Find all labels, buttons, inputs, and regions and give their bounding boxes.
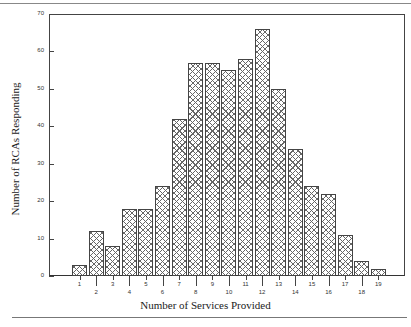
x-tick-label: 2	[86, 289, 106, 295]
y-tick	[49, 201, 54, 202]
x-tick	[163, 276, 164, 286]
top-rule	[0, 3, 411, 4]
bar-13	[271, 89, 286, 276]
bar-9	[205, 63, 220, 276]
x-tick	[295, 276, 296, 286]
y-tick-label: 50	[20, 85, 44, 91]
x-tick	[345, 276, 346, 280]
x-tick	[312, 276, 313, 280]
x-tick-label: 15	[302, 281, 322, 287]
y-tick-label: 10	[20, 235, 44, 241]
x-tick-label: 7	[169, 281, 189, 287]
y-tick	[49, 51, 54, 52]
bar-11	[238, 59, 253, 276]
bar-6	[155, 186, 170, 276]
x-tick	[362, 276, 363, 286]
y-tick	[49, 126, 54, 127]
bar-14	[288, 149, 303, 276]
y-tick-label: 0	[20, 272, 44, 278]
bottom-rule	[12, 317, 407, 318]
x-tick-label: 12	[252, 289, 272, 295]
y-tick-label: 30	[20, 160, 44, 166]
bar-5	[138, 209, 153, 276]
x-tick	[80, 276, 81, 280]
x-tick	[129, 276, 130, 286]
bar-15	[304, 186, 319, 276]
bar-17	[338, 235, 353, 276]
y-tick-label: 40	[20, 122, 44, 128]
x-tick-label: 8	[186, 289, 206, 295]
bar-18	[354, 261, 369, 276]
bar-3	[105, 246, 120, 276]
x-tick-label: 3	[103, 281, 123, 287]
y-tick-label: 70	[20, 10, 44, 16]
x-tick-label: 17	[335, 281, 355, 287]
bar-10	[221, 70, 236, 276]
x-tick-label: 5	[136, 281, 156, 287]
x-tick	[246, 276, 247, 280]
x-tick	[146, 276, 147, 280]
x-tick	[279, 276, 280, 280]
y-axis-title: Number of RCAs Responding	[9, 74, 21, 224]
x-tick	[378, 276, 379, 280]
x-tick-label: 4	[119, 289, 139, 295]
x-tick-label: 14	[285, 289, 305, 295]
x-axis-title: Number of Services Provided	[0, 299, 411, 311]
bar-12	[255, 29, 270, 276]
x-tick-label: 16	[319, 289, 339, 295]
y-tick	[49, 14, 54, 15]
bar-8	[188, 63, 203, 276]
x-tick	[196, 276, 197, 286]
x-tick-label: 9	[202, 281, 222, 287]
bar-4	[122, 209, 137, 276]
x-tick	[179, 276, 180, 280]
bar-2	[89, 231, 104, 276]
y-tick	[49, 239, 54, 240]
bar-7	[172, 119, 187, 276]
y-tick-label: 20	[20, 197, 44, 203]
bar-19	[371, 269, 386, 276]
x-tick	[96, 276, 97, 286]
x-tick-label: 11	[236, 281, 256, 287]
y-tick	[49, 276, 54, 277]
y-tick	[49, 164, 54, 165]
x-tick	[113, 276, 114, 280]
x-tick-label: 10	[219, 289, 239, 295]
x-tick-label: 18	[352, 289, 372, 295]
x-tick-label: 1	[70, 281, 90, 287]
x-tick-label: 19	[368, 281, 388, 287]
x-tick-label: 6	[153, 289, 173, 295]
x-tick	[212, 276, 213, 280]
x-tick-label: 13	[269, 281, 289, 287]
bar-1	[72, 265, 87, 276]
y-tick-label: 60	[20, 47, 44, 53]
x-tick	[229, 276, 230, 286]
x-tick	[329, 276, 330, 286]
x-tick	[262, 276, 263, 286]
bar-16	[321, 194, 336, 276]
y-tick	[49, 89, 54, 90]
